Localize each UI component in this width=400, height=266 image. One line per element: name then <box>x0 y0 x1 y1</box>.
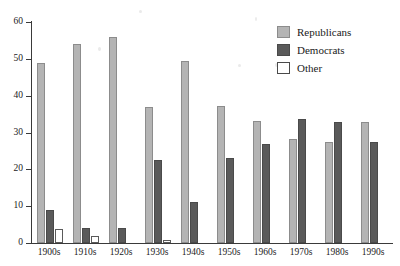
x-axis-label-1920s: 1920s <box>103 247 139 258</box>
legend-swatch-democrats-icon <box>277 44 290 56</box>
y-axis-tick-label: 60 <box>0 17 23 27</box>
bar-democrats-1910s <box>82 228 90 243</box>
bar-republicans-1920s <box>109 37 117 243</box>
bar-democrats-1920s <box>118 228 126 243</box>
bar-republicans-1980s <box>325 142 333 243</box>
y-axis-tick-label: 30 <box>0 128 23 138</box>
x-axis-label-1960s: 1960s <box>247 247 283 258</box>
y-axis-tick <box>26 59 32 60</box>
x-axis-label-1910s: 1910s <box>67 247 103 258</box>
bar-democrats-1940s <box>190 202 198 243</box>
y-axis-tick-label: 40 <box>0 91 23 101</box>
bar-republicans-1900s <box>37 63 45 243</box>
y-axis-tick <box>26 96 32 97</box>
bar-democrats-1960s <box>262 144 270 243</box>
bar-democrats-1930s <box>154 160 162 243</box>
legend-item-democrats[interactable]: Democrats <box>277 41 351 59</box>
x-axis-label-1900s: 1900s <box>31 247 67 258</box>
y-axis-tick-label: 0 <box>0 238 23 248</box>
bar-democrats-1970s <box>298 119 306 243</box>
x-axis-line <box>31 243 393 244</box>
bar-republicans-1940s <box>181 61 189 243</box>
scan-speckle <box>238 64 241 67</box>
scan-speckle <box>255 17 257 21</box>
bar-chart: 0102030405060 1900s1910s1920s1930s1940s1… <box>0 0 400 266</box>
scan-speckle <box>139 10 142 13</box>
x-axis-label-1930s: 1930s <box>139 247 175 258</box>
y-axis-tick <box>26 206 32 207</box>
bar-republicans-1930s <box>145 107 153 243</box>
bar-other-1930s <box>163 240 171 243</box>
bar-other-1900s <box>55 229 63 243</box>
y-axis-tick <box>26 169 32 170</box>
bar-democrats-1990s <box>370 142 378 243</box>
y-axis-tick <box>26 133 32 134</box>
bar-republicans-1910s <box>73 44 81 243</box>
y-axis-tick <box>26 243 32 244</box>
y-axis-tick-label: 10 <box>0 201 23 211</box>
bar-republicans-1960s <box>253 121 261 243</box>
legend-swatch-republicans-icon <box>277 26 290 38</box>
bar-republicans-1950s <box>217 106 225 243</box>
legend-item-republicans[interactable]: Republicans <box>277 23 351 41</box>
legend-label: Republicans <box>297 26 351 38</box>
x-axis-label-1940s: 1940s <box>175 247 211 258</box>
x-axis-label-1950s: 1950s <box>211 247 247 258</box>
legend-label: Democrats <box>297 44 345 56</box>
y-axis-tick-label: 50 <box>0 54 23 64</box>
bar-democrats-1900s <box>46 210 54 243</box>
x-axis-label-1970s: 1970s <box>283 247 319 258</box>
bar-republicans-1970s <box>289 139 297 243</box>
bar-other-1910s <box>91 236 99 243</box>
legend-label: Other <box>297 62 322 74</box>
scan-speckle <box>98 47 101 51</box>
bar-democrats-1980s <box>334 122 342 243</box>
x-axis-label-1990s: 1990s <box>355 247 391 258</box>
x-axis-label-1980s: 1980s <box>319 247 355 258</box>
legend-item-other[interactable]: Other <box>277 59 351 77</box>
legend-swatch-other-icon <box>277 62 290 74</box>
chart-legend: RepublicansDemocratsOther <box>277 23 351 77</box>
bar-democrats-1950s <box>226 158 234 243</box>
bar-republicans-1990s <box>361 122 369 243</box>
y-axis-tick-label: 20 <box>0 164 23 174</box>
y-axis-tick <box>26 22 32 23</box>
